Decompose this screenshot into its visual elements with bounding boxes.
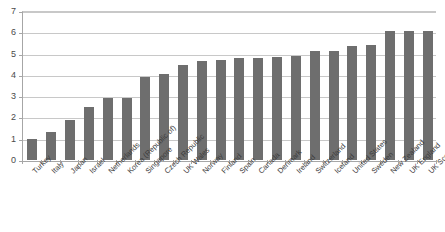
x-axis-label-text: Singapore (145, 166, 154, 175)
x-axis-label-text: Denmark (276, 166, 285, 175)
x-axis-label-text: UK Scotland (427, 166, 436, 175)
x-axis-label-text: Canada (257, 166, 266, 175)
x-axis-label-text: United States (352, 166, 361, 175)
x-axis-label-text: Ireland (295, 166, 304, 175)
y-axis-tick-label: 1 (11, 134, 16, 143)
bar-series (23, 12, 436, 160)
x-axis-label-text: Japan (69, 166, 78, 175)
x-axis-label-text: Israel (88, 166, 97, 175)
x-axis-label-text: Netherlands (107, 166, 116, 175)
x-axis-label-text: UK Wales (182, 166, 191, 175)
bar (347, 46, 357, 160)
bar (234, 58, 244, 160)
y-axis-tick-label: 6 (11, 28, 16, 37)
bar (65, 120, 75, 160)
x-axis-label-text: Czech Republic (163, 166, 172, 175)
x-axis-label-text: Turkey (32, 166, 41, 175)
y-axis-tick-label: 2 (11, 113, 16, 122)
x-axis-labels: TurkeyItalyJapanIsraelNetherlandsKorea (… (0, 164, 445, 232)
bar-chart: 01234567 TurkeyItalyJapanIsraelNetherlan… (0, 0, 445, 232)
y-axis-tick-label: 3 (11, 92, 16, 101)
x-axis-label-text: New Zealand (389, 166, 398, 175)
x-axis-label-text: Iceland (333, 166, 342, 175)
x-axis-label-text: Switzerland (314, 166, 323, 175)
bar (216, 60, 226, 160)
chart-title-remnant (0, 0, 445, 5)
bar (404, 31, 414, 160)
bar (423, 31, 433, 160)
x-axis-label-text: Italy (50, 166, 59, 175)
bar (84, 107, 94, 160)
x-axis-label-text: Sweden (370, 166, 379, 175)
bar (366, 45, 376, 160)
x-axis-label-text: Finland (220, 166, 229, 175)
bar (103, 98, 113, 160)
bar (310, 51, 320, 160)
x-axis-label-text: Spain (239, 166, 248, 175)
bar (253, 58, 263, 160)
bar (27, 139, 37, 160)
y-axis-tick-label: 4 (11, 70, 16, 79)
y-axis-tick-label: 5 (11, 49, 16, 58)
x-axis-label-text: Korea (Republic of) (126, 166, 135, 175)
plot-area (22, 11, 436, 160)
bar (272, 57, 282, 160)
x-axis-label-text: UK England (408, 166, 417, 175)
x-axis-label-text: Norway (201, 166, 210, 175)
bar (291, 56, 301, 160)
y-axis-tick-label: 7 (11, 7, 16, 16)
